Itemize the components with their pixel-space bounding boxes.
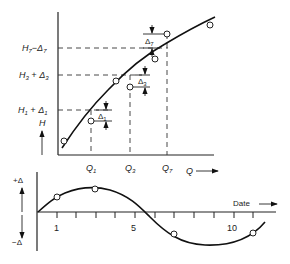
deviation-point bbox=[92, 186, 98, 192]
delta1-label: Δ1 bbox=[98, 112, 107, 122]
bottom-chart: Date 1 5 10 +Δ −Δ bbox=[12, 172, 277, 251]
minus-delta-label: −Δ bbox=[12, 238, 23, 247]
measurement-point bbox=[207, 22, 213, 28]
deviation-point bbox=[171, 231, 177, 237]
measurement-point bbox=[164, 31, 170, 37]
top-chart: Δ1 Δ3 Δ7 H7−Δ7 H3 + Δ3 H1 + Δ1 H Q1 Q3 Q… bbox=[18, 12, 218, 176]
y-label-h3: H3 + Δ3 bbox=[19, 70, 49, 81]
x-label-q3: Q3 bbox=[125, 163, 136, 174]
measurement-point bbox=[113, 78, 119, 84]
measurement-point bbox=[61, 138, 67, 144]
x-label-q1: Q1 bbox=[86, 163, 96, 174]
deviation-point bbox=[250, 230, 256, 236]
measurement-point bbox=[127, 84, 133, 90]
deviation-curve bbox=[38, 188, 265, 246]
y-label-h7: H7−Δ7 bbox=[22, 43, 47, 54]
delta3-label: Δ3 bbox=[138, 77, 147, 87]
tick-label-5: 5 bbox=[131, 223, 136, 233]
date-ticks bbox=[57, 212, 253, 218]
y-label-h1: H1 + Δ1 bbox=[18, 105, 48, 116]
plus-delta-label: +Δ bbox=[13, 176, 24, 185]
h-axis-label: H bbox=[39, 118, 46, 128]
q-axis-label: Q bbox=[186, 166, 193, 176]
diagram-canvas: Δ1 Δ3 Δ7 H7−Δ7 H3 + Δ3 H1 + Δ1 H Q1 Q3 Q… bbox=[0, 0, 290, 264]
x-label-q7: Q7 bbox=[162, 163, 173, 174]
measurement-point bbox=[152, 56, 158, 62]
tick-label-1: 1 bbox=[54, 223, 59, 233]
deviation-point bbox=[54, 194, 60, 200]
delta7-label: Δ7 bbox=[145, 37, 154, 47]
tick-label-10: 10 bbox=[227, 223, 237, 233]
date-axis-label: Date bbox=[233, 199, 250, 208]
measurement-point bbox=[88, 118, 94, 124]
